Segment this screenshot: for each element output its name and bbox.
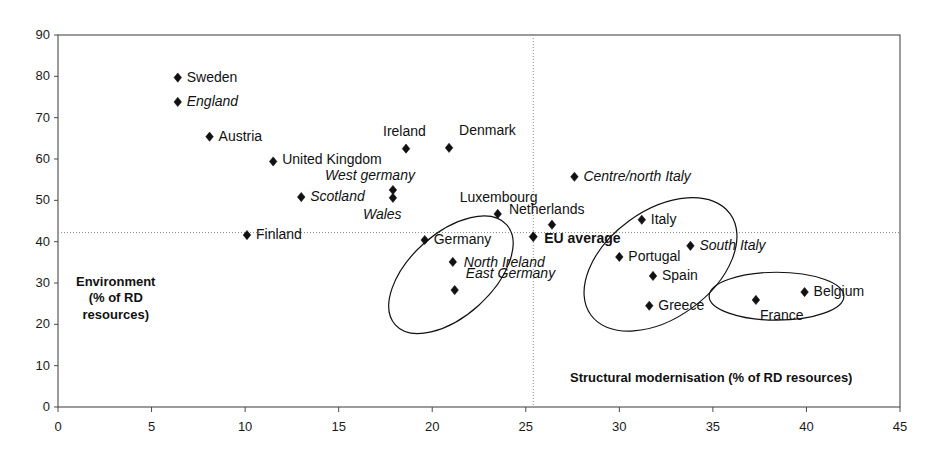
data-point-label: Greece [658,298,704,312]
data-point-label: EU average [544,231,620,245]
data-point-label: Spain [662,268,698,282]
data-point-marker[interactable] [638,215,646,224]
data-point-label: Ireland [383,124,426,138]
x-axis-tick-label: 15 [314,419,364,434]
x-axis-tick-label: 20 [407,419,457,434]
plot-frame [58,35,900,407]
scatter-chart-figure: 0102030405060708090051015202530354045Swe… [0,0,937,461]
data-point-label: Netherlands [509,202,585,216]
data-point-marker[interactable] [206,132,214,141]
y-axis-note-line: (% of RD [76,290,155,306]
data-point-label: Centre/north Italy [583,169,690,183]
data-point-label: France [760,308,804,322]
x-axis-tick-label: 5 [127,419,177,434]
data-point-marker[interactable] [389,193,397,202]
y-axis-tick-label: 90 [8,27,50,42]
data-point-marker[interactable] [445,143,453,152]
data-point-marker[interactable] [687,241,695,250]
data-point-marker[interactable] [801,287,809,296]
data-point-marker[interactable] [616,252,624,261]
data-point-marker[interactable] [645,301,653,310]
data-point-label: Finland [256,227,302,241]
data-point-label: Denmark [459,123,516,137]
y-axis-tick-label: 50 [8,192,50,207]
data-point-label: Belgium [814,284,865,298]
data-point-label: Italy [651,212,677,226]
data-point-marker[interactable] [174,97,182,106]
data-point-marker[interactable] [421,235,429,244]
data-point-label: United Kingdom [282,152,382,166]
data-point-label: Sweden [187,70,238,84]
y-axis-tick-label: 80 [8,68,50,83]
data-point-marker[interactable] [174,73,182,82]
x-axis-tick-label: 40 [781,419,831,434]
data-point-marker[interactable] [402,144,410,153]
x-axis-tick-label: 0 [33,419,83,434]
data-point-marker[interactable] [529,232,537,242]
data-point-label: Wales [363,207,402,221]
data-point-marker[interactable] [297,192,305,201]
data-point-marker[interactable] [269,157,277,166]
x-axis-tick-label: 10 [220,419,270,434]
data-point-marker[interactable] [449,257,457,266]
data-point-label: Portugal [628,249,680,263]
y-axis-note: Environment(% of RDresources) [76,274,155,323]
x-axis-tick-label: 35 [688,419,738,434]
y-axis-tick-label: 60 [8,151,50,166]
x-axis-note: Structural modernisation (% of RD resour… [570,370,852,386]
data-point-marker[interactable] [548,220,556,229]
data-point-marker[interactable] [571,172,579,181]
data-point-label: East Germany [466,266,555,280]
data-point-marker[interactable] [649,271,657,280]
data-point-label: Scotland [310,189,364,203]
y-axis-tick-label: 30 [8,275,50,290]
data-point-marker[interactable] [752,295,760,304]
data-point-label: Austria [219,129,263,143]
data-point-label: West germany [325,168,415,182]
data-point-label: South Italy [699,238,765,252]
y-axis-note-line: Environment [76,274,155,290]
y-axis-tick-label: 0 [8,399,50,414]
x-axis-tick-label: 30 [594,419,644,434]
x-axis-tick-label: 45 [875,419,925,434]
y-axis-tick-label: 70 [8,110,50,125]
data-point-marker[interactable] [451,285,459,294]
data-point-label: England [187,94,238,108]
y-axis-tick-label: 20 [8,316,50,331]
y-axis-note-line: resources) [76,307,155,323]
cluster-ellipse-southern-europe-cluster [559,170,761,358]
data-point-label: Germany [434,232,492,246]
y-axis-tick-label: 40 [8,234,50,249]
x-axis-tick-label: 25 [501,419,551,434]
data-point-marker[interactable] [243,230,251,239]
y-axis-tick-label: 10 [8,358,50,373]
